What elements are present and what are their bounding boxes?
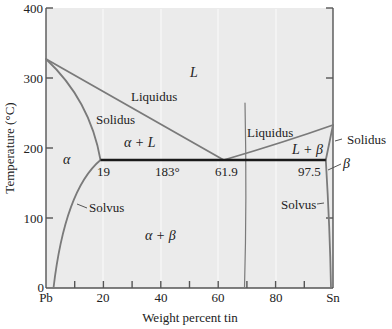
x-tick-label-sn: Sn (326, 290, 340, 305)
label-liquidus-left: Liquidus (131, 89, 177, 104)
x-tick-label-pb: Pb (39, 290, 53, 305)
label-liquidus-right: Liquidus (247, 125, 293, 140)
x-tick-label-60: 60 (212, 290, 225, 305)
x-axis-title: Weight percent tin (142, 310, 238, 325)
region-label-alpha-plus-beta: α + β (145, 228, 176, 243)
region-label-beta: β (342, 156, 350, 171)
y-tick-label-300: 300 (24, 71, 44, 86)
plot-area (46, 8, 333, 288)
y-tick-label-200: 200 (24, 141, 44, 156)
y-axis-title: Temperature (°C) (2, 102, 17, 193)
region-label-alpha-plus-liquid: α + L (124, 135, 156, 150)
x-tick-label-80: 80 (270, 290, 283, 305)
x-tick-label-20: 20 (97, 290, 110, 305)
label-solidus-left: Solidus (96, 112, 135, 127)
label-19: 19 (97, 164, 110, 179)
pb-sn-phase-diagram: 400 300 200 100 0 Pb 20 40 60 80 Sn Weig… (0, 0, 392, 329)
label-97-5: 97.5 (298, 164, 321, 179)
x-tick-label-40: 40 (155, 290, 168, 305)
region-label-liquid-plus-beta: L + β (291, 142, 323, 157)
label-183: 183° (155, 164, 180, 179)
y-tick-label-100: 100 (24, 211, 44, 226)
label-solvus-left: Solvus (89, 200, 124, 215)
label-solvus-right: Solvus (281, 197, 316, 212)
region-label-liquid: L (189, 65, 198, 80)
y-tick-label-400: 400 (24, 1, 44, 16)
label-61-9: 61.9 (215, 164, 238, 179)
label-solidus-right: Solidus (347, 132, 386, 147)
region-label-alpha: α (63, 152, 71, 167)
